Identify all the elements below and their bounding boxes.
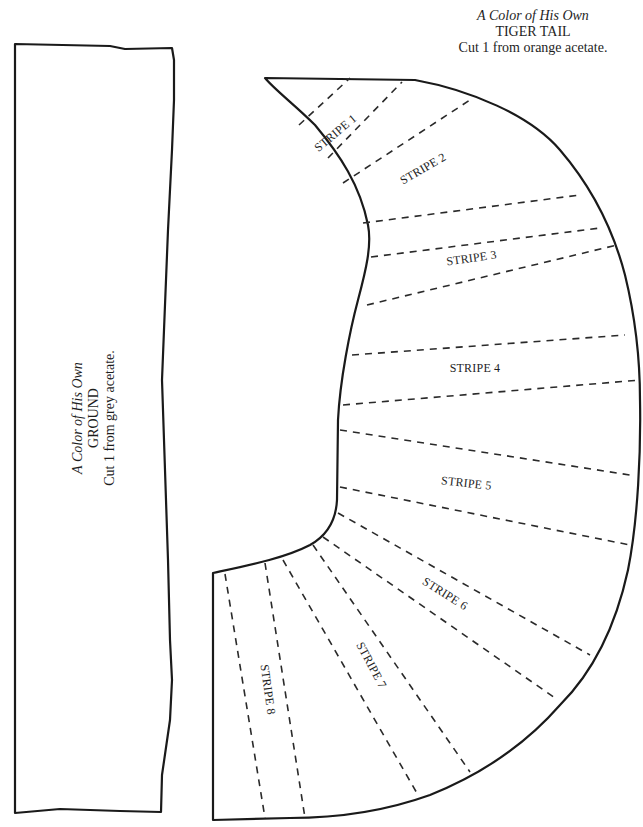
stripe-4-label: STRIPE 4 <box>450 361 501 375</box>
tiger-tail-caption-name: TIGER TAIL <box>440 24 626 40</box>
ground-caption-title: A Color of His Own <box>70 288 86 548</box>
tiger-tail-caption: A Color of His Own TIGER TAIL Cut 1 from… <box>440 8 626 56</box>
tiger-tail-caption-title: A Color of His Own <box>440 8 626 24</box>
tiger-tail-caption-instruction: Cut 1 from orange acetate. <box>440 40 626 56</box>
ground-caption-instruction: Cut 1 from grey acetate. <box>102 288 118 548</box>
ground-caption: A Color of His Own GROUND Cut 1 from gre… <box>70 288 118 548</box>
ground-caption-name: GROUND <box>86 288 102 548</box>
